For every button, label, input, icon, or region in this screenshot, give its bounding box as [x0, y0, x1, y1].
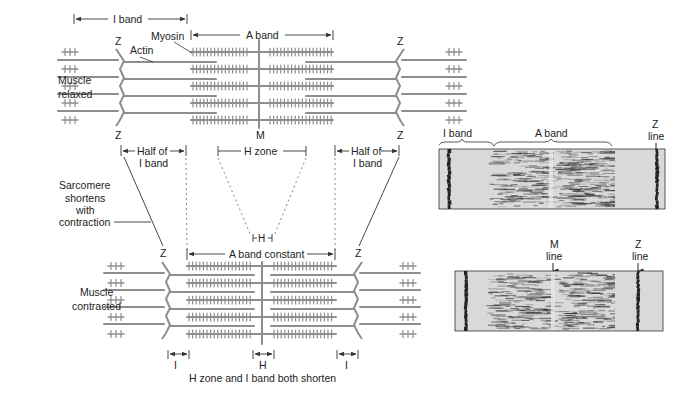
m-label: M: [256, 129, 265, 141]
caption: H zone and I band both shorten: [189, 372, 336, 384]
sarcomere-shortens-label-4: contraction: [59, 216, 111, 228]
micrograph-relaxed-labels: I band A band Z line: [439, 118, 665, 152]
micrograph-relaxed: [439, 149, 665, 209]
micrograph-m-line-label-2: line: [546, 250, 563, 262]
half-i-band-left-label-2: I band: [139, 157, 168, 169]
z-label-bottom-right: Z: [397, 129, 404, 141]
half-i-band-left-label: Half of: [137, 145, 167, 157]
sarcomere-shortens-label-3: with: [75, 204, 95, 216]
a-band-label-top: A band: [246, 29, 279, 41]
z-label-contracted-left: Z: [160, 247, 167, 259]
z-label-bottom-left: Z: [115, 129, 122, 141]
muscle-contracted-label-2: contracted: [72, 300, 121, 312]
h-label-contracted: H: [259, 359, 267, 371]
micrograph-z-line-label: Z: [652, 118, 659, 130]
muscle-contracted-label: Muscle: [80, 286, 113, 298]
h-small-label: H: [258, 233, 265, 244]
h-zone-label: H zone: [244, 145, 277, 157]
micrograph-z-line-label-contracted: Z: [635, 238, 642, 250]
half-i-band-right-label: Half of: [351, 145, 381, 157]
muscle-relaxed-label: Muscle: [58, 74, 91, 86]
i-left-label: I: [174, 359, 177, 371]
z-label-top-left: Z: [115, 35, 122, 47]
actin-label: Actin: [130, 44, 154, 56]
relaxed-sarcomere: [58, 40, 466, 128]
half-i-band-right-label-2: I band: [353, 157, 382, 169]
micrograph-z-line-label-contracted-2: line: [632, 250, 649, 262]
sarcomere-shortens-label: Sarcomere: [59, 179, 111, 191]
micrograph-contracted-labels: M line Z line: [546, 238, 649, 271]
i-right-label: I: [345, 359, 348, 371]
myosin-label: Myosin: [151, 30, 184, 42]
micrograph-a-band-label: A band: [535, 127, 568, 139]
sarcomere-diagram: Muscle relaxed I band A band Myosin Acti…: [0, 0, 677, 394]
sarcomere-shortens-label-2: shortens: [65, 192, 105, 204]
micrograph-i-band-label: I band: [443, 127, 472, 139]
z-label-contracted-right: Z: [355, 247, 362, 259]
a-band-constant-label: A band constant: [229, 248, 304, 260]
diagram-canvas: Muscle relaxed I band A band Myosin Acti…: [0, 0, 677, 394]
relaxed-labels: Muscle relaxed I band A band Myosin Acti…: [58, 13, 404, 169]
micrograph-z-line-label-2: line: [648, 130, 665, 142]
i-band-label-top: I band: [113, 13, 142, 25]
transition-guides: Sarcomere shortens with contraction H: [59, 157, 399, 250]
muscle-relaxed-label-2: relaxed: [58, 88, 93, 100]
micrograph-contracted: [455, 271, 663, 331]
z-label-top-right: Z: [397, 35, 404, 47]
micrograph-m-line-label: M: [550, 238, 559, 250]
contracted-sarcomere: [104, 262, 420, 344]
